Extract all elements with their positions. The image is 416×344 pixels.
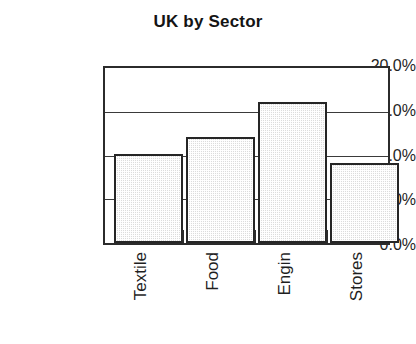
x-category-label-stores: Stores (347, 252, 365, 338)
x-tick-mark-2 (254, 230, 256, 243)
bar-chart: UK by Sector 20.0% 15.0% 10.0% 5.0% 0.0%… (0, 0, 416, 344)
chart-title: UK by Sector (0, 12, 416, 32)
bar-textile[interactable] (114, 154, 183, 243)
x-category-label-engin: Engin (275, 252, 293, 338)
bar-stores[interactable] (330, 163, 399, 244)
plot-area (103, 66, 390, 245)
gridline-15 (105, 112, 388, 113)
x-tick-mark-3 (326, 230, 328, 243)
bar-food[interactable] (186, 137, 255, 243)
bar-engin[interactable] (258, 102, 327, 243)
x-tick-mark-1 (182, 230, 184, 243)
x-category-label-food: Food (203, 252, 221, 338)
x-category-label-textile: Textile (131, 252, 149, 338)
